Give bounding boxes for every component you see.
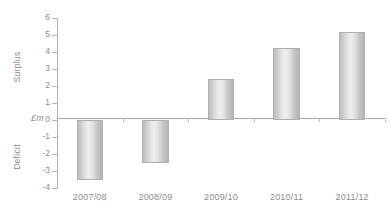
bar bbox=[142, 120, 168, 163]
x-axis-tick bbox=[188, 118, 189, 122]
y-axis-tick-label: 4 bbox=[32, 47, 50, 56]
y-axis-tick-label: 5 bbox=[32, 30, 50, 39]
x-axis-tick bbox=[123, 118, 124, 122]
x-axis-tick bbox=[319, 118, 320, 122]
x-axis-category-label: 2009/10 bbox=[188, 192, 254, 202]
x-axis-category-label: 2007/08 bbox=[57, 192, 123, 202]
y-axis-deficit-label: Deficit bbox=[12, 127, 22, 187]
y-axis-tick-label: -1 bbox=[32, 132, 50, 141]
y-axis-tick bbox=[52, 188, 58, 189]
y-axis-tick-label: 6 bbox=[32, 13, 50, 22]
x-axis-category-label: 2008/09 bbox=[123, 192, 189, 202]
x-axis-tick bbox=[254, 118, 255, 122]
y-axis-tick-label: 3 bbox=[32, 64, 50, 73]
y-axis-surplus-label: Surplus bbox=[12, 37, 22, 97]
bar bbox=[339, 32, 365, 120]
y-axis-tick-label: 0 bbox=[32, 115, 50, 124]
y-axis-tick-label: 1 bbox=[32, 98, 50, 107]
bar bbox=[77, 120, 103, 180]
y-axis-tick-label: 2 bbox=[32, 81, 50, 90]
x-axis-category-label: 2011/12 bbox=[319, 192, 385, 202]
y-axis-tick-label: -3 bbox=[32, 166, 50, 175]
x-axis-tick bbox=[385, 118, 386, 122]
bar bbox=[273, 48, 299, 120]
x-axis-category-label: 2010/11 bbox=[254, 192, 320, 202]
bar-chart: Surplus £m Deficit 6543210-1-2-3-4 2007/… bbox=[0, 0, 392, 217]
plot-area bbox=[57, 18, 385, 188]
y-axis-tick-label: -2 bbox=[32, 149, 50, 158]
y-axis-tick-label: -4 bbox=[32, 183, 50, 192]
bar bbox=[208, 79, 234, 120]
